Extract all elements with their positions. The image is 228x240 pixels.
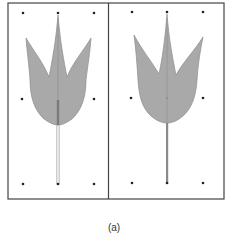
control-point[interactable]	[22, 183, 25, 186]
leaf-deformation-figure	[0, 0, 228, 240]
control-point[interactable]	[57, 12, 60, 15]
control-point[interactable]	[130, 97, 133, 100]
control-point[interactable]	[93, 12, 96, 15]
control-point[interactable]	[202, 97, 205, 100]
control-point[interactable]	[57, 183, 60, 186]
control-point[interactable]	[93, 183, 96, 186]
left-petiole	[57, 100, 59, 125]
control-point[interactable]	[93, 98, 96, 101]
control-point[interactable]	[131, 11, 134, 14]
control-point[interactable]	[202, 182, 205, 185]
center-point-faint	[166, 97, 168, 99]
control-point[interactable]	[131, 182, 134, 185]
control-point[interactable]	[202, 11, 205, 14]
right-stem	[166, 120, 168, 184]
control-point[interactable]	[22, 12, 25, 15]
control-point[interactable]	[166, 182, 169, 185]
left-panel	[21, 12, 96, 186]
right-panel	[130, 11, 205, 185]
right-leaf-shape	[134, 14, 203, 123]
control-point[interactable]	[166, 11, 169, 14]
control-point[interactable]	[21, 98, 24, 101]
figure-caption: (a)	[0, 222, 228, 233]
